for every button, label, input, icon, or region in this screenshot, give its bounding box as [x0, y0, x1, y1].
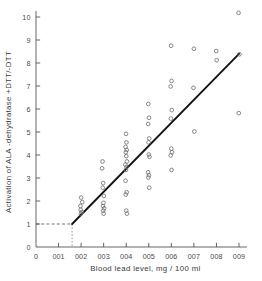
data-point-group [79, 11, 242, 215]
data-point-marker [146, 176, 150, 180]
data-point-marker [79, 196, 83, 200]
data-point-marker [192, 47, 196, 51]
data-point-marker [169, 154, 173, 158]
x-tick-label: 005 [143, 252, 155, 261]
data-point-marker [192, 86, 196, 90]
scatter-chart-figure: 0123456789100001002003004005006007008009… [0, 0, 262, 281]
x-tick-label: 003 [98, 252, 110, 261]
data-point-marker [169, 85, 173, 89]
x-tick-label: 006 [165, 252, 177, 261]
x-tick-label: 008 [210, 252, 222, 261]
y-tick-label: 7 [26, 82, 30, 91]
y-tick-label: 1 [26, 220, 30, 229]
data-point-marker [214, 49, 218, 53]
data-point-marker [146, 122, 150, 126]
y-tick-label: 8 [26, 59, 30, 68]
x-tick-label: 009 [233, 252, 245, 261]
data-point-marker [170, 79, 174, 83]
y-tick-label: 6 [26, 105, 30, 114]
x-tick-label: 001 [52, 252, 64, 261]
y-tick-label: 5 [26, 128, 30, 137]
regression-line [72, 54, 239, 224]
y-axis-title: Activation of ALA -dehydratase +DTT/-DTT [4, 51, 13, 213]
chart-canvas: 0123456789100001002003004005006007008009… [0, 0, 262, 281]
data-point-marker [124, 193, 128, 197]
data-point-marker [170, 108, 174, 112]
data-point-marker [169, 44, 173, 48]
data-point-marker [101, 181, 105, 185]
data-point-marker [148, 155, 152, 159]
data-point-marker [146, 102, 150, 106]
data-point-marker [147, 137, 151, 141]
data-point-marker [124, 179, 128, 183]
data-point-marker [169, 117, 173, 121]
y-tick-label: 3 [26, 174, 30, 183]
data-point-marker [170, 168, 174, 172]
x-tick-label: 004 [120, 252, 132, 261]
data-point-marker [192, 130, 196, 134]
x-axis-title: Blood lead level, mg / 100 ml [90, 264, 200, 273]
data-point-marker [125, 141, 129, 145]
data-point-marker [100, 166, 104, 170]
data-point-marker [147, 116, 151, 120]
data-point-marker [147, 141, 151, 145]
data-point-marker [102, 194, 106, 198]
data-point-marker [101, 160, 105, 164]
x-tick-label: 0 [34, 252, 38, 261]
x-tick-label: 002 [75, 252, 87, 261]
y-tick-label: 10 [22, 13, 30, 22]
data-point-marker [125, 190, 129, 194]
y-tick-label: 2 [26, 197, 30, 206]
data-point-marker [124, 132, 128, 136]
x-tick-label: 007 [188, 252, 200, 261]
data-point-marker [101, 186, 105, 190]
y-tick-label: 4 [26, 151, 30, 160]
data-point-marker [79, 204, 83, 208]
data-point-marker [124, 154, 128, 158]
y-tick-label: 9 [26, 36, 30, 45]
data-point-marker [169, 147, 173, 151]
data-point-marker [215, 58, 219, 62]
data-point-marker [237, 111, 241, 115]
data-point-marker [147, 186, 151, 190]
data-point-marker [124, 150, 128, 154]
data-point-marker [80, 200, 84, 204]
y-tick-label: 0 [26, 243, 30, 252]
data-point-marker [237, 11, 241, 15]
